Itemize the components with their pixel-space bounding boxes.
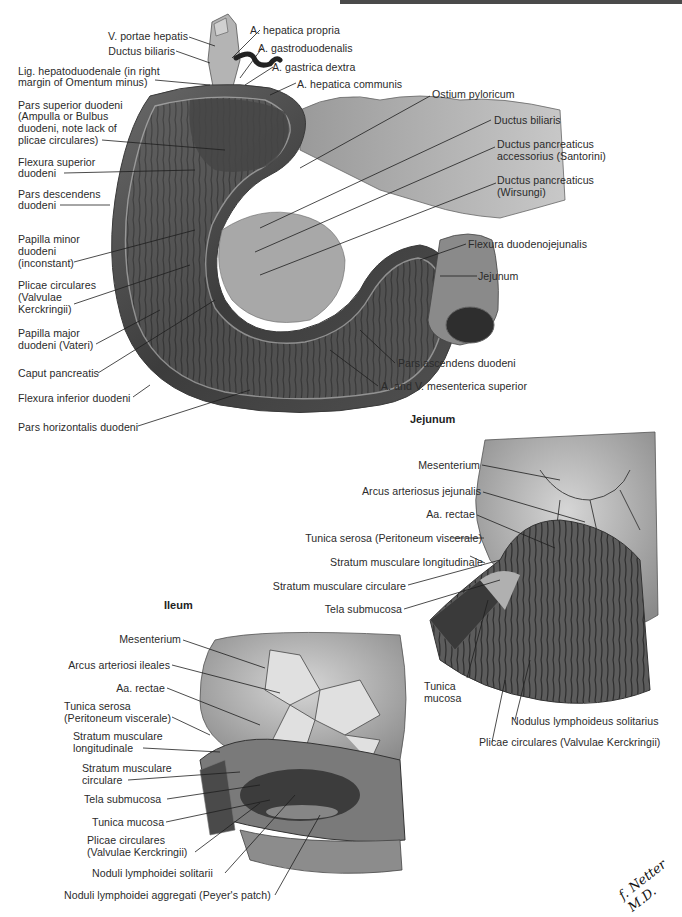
label-ileum-stratum-circulare-2: circulare	[82, 774, 122, 787]
label-plicae-circulares-2: (Valvulae	[18, 291, 62, 304]
label-flexura-duodenojejunalis: Flexura duodenojejunalis	[468, 238, 587, 251]
label-ileum-stratum-circulare-1: Stratum musculare	[82, 762, 172, 775]
label-ileum-aa-rectae: Aa. rectae	[60, 682, 165, 695]
label-ileum-tunica-serosa-1: Tunica serosa	[64, 700, 131, 713]
label-noduli-lymphoidei-aggregati: Noduli lymphoidei aggregati (Peyer's pat…	[64, 889, 271, 902]
label-pars-superior-2: (Ampulla or Bulbus	[18, 110, 108, 123]
label-papilla-minor-3: (inconstant)	[18, 257, 74, 270]
label-jejunum-tela-submucosa: Tela submucosa	[250, 603, 402, 616]
label-jejunum-tunica-mucosa-1: Tunica	[424, 680, 456, 693]
label-plicae-circulares-1: Plicae circulares	[18, 279, 96, 292]
label-flexura-superior-2: duodeni	[18, 167, 56, 180]
label-a-gastrica-dextra: A. gastrica dextra	[272, 61, 355, 74]
label-jejunum-aa-rectae: Aa. rectae	[280, 508, 475, 521]
label-arcus-arteriosus-jejunalis: Arcus arteriosus jejunalis	[280, 485, 481, 498]
label-a-hepatica-propria: A. hepatica propria	[250, 24, 340, 37]
label-jejunum-tunica-mucosa-2: mucosa	[424, 692, 461, 705]
label-ileum-mesenterium: Mesenterium	[60, 633, 181, 646]
label-caput-pancreatis: Caput pancreatis	[18, 367, 99, 380]
label-ileum-stratum-longitudinale-1: Stratum musculare	[73, 730, 163, 743]
label-plicae-circulares-3: Kerckringii)	[18, 303, 72, 316]
label-jejunum-stratum-circulare: Stratum musculare circulare	[200, 580, 406, 593]
ileum-section-title: Ileum	[164, 599, 193, 611]
label-pars-superior-4: plicae circulares)	[18, 134, 98, 147]
label-a-hepatica-communis: A. hepatica communis	[297, 78, 402, 91]
label-nodulus-lymphoideus-solitarius: Nodulus lymphoideus solitarius	[511, 715, 659, 728]
label-jejunum: Jejunum	[478, 270, 518, 283]
label-jejunum-plicae-circulares: Plicae circulares (Valvulae Kerckringii)	[479, 736, 660, 749]
label-ileum-tela-submucosa: Tela submucosa	[84, 793, 161, 806]
label-jejunum-mesenterium: Mesenterium	[280, 459, 480, 472]
label-pars-ascendens: Pars ascendens duodeni	[398, 357, 516, 370]
label-lig-hepatoduodenale-2: margin of Omentum minus)	[18, 76, 148, 89]
label-ileum-tunica-mucosa: Tunica mucosa	[92, 816, 164, 829]
label-ductus-pancreaticus-2: (Wirsungi)	[497, 186, 546, 199]
label-papilla-minor-2: duodeni	[18, 245, 56, 258]
duodenum-illustration	[112, 14, 565, 413]
label-ostium-pyloricum: Ostium pyloricum	[432, 88, 515, 101]
label-ileum-stratum-longitudinale-2: longitudinale	[73, 742, 133, 755]
label-pars-horizontalis: Pars horizontalis duodeni	[18, 421, 138, 434]
label-jejunum-tunica-serosa: Tunica serosa (Peritoneum viscerale)	[200, 532, 482, 545]
label-a-gastroduodenalis: A. gastroduodenalis	[258, 42, 353, 55]
label-noduli-lymphoidei-solitarii: Noduli lymphoidei solitarii	[92, 867, 213, 880]
ileum-illustration	[200, 632, 406, 873]
label-ileum-tunica-serosa-2: (Peritoneum viscerale)	[64, 712, 171, 725]
label-flexura-inferior: Flexura inferior duodeni	[18, 392, 131, 405]
label-ductus-pancreaticus-acc-2: accessorius (Santorini)	[497, 150, 606, 163]
label-papilla-major-2: duodeni (Vateri)	[18, 339, 93, 352]
label-v-portae-hepatis: V. portae hepatis	[70, 30, 188, 43]
label-papilla-major-1: Papilla major	[18, 327, 80, 340]
label-ductus-biliaris-top: Ductus biliaris	[70, 45, 175, 58]
label-arcus-arteriosi-ileales: Arcus arteriosi ileales	[30, 659, 170, 672]
label-ileum-plicae-circulares-1: Plicae circulares	[87, 834, 165, 847]
label-a-v-mesenterica-superior: A. and V. mesenterica superior	[381, 380, 527, 393]
label-ductus-pancreaticus-acc-1: Ductus pancreaticus	[497, 138, 594, 151]
label-ductus-pancreaticus-1: Ductus pancreaticus	[497, 174, 594, 187]
label-ileum-plicae-circulares-2: (Valvulae Kerckringii)	[87, 846, 187, 859]
label-ductus-biliaris-right: Ductus biliaris	[494, 114, 561, 127]
label-pars-superior-3: duodeni, note lack of	[18, 122, 117, 135]
label-pars-descendens-2: duodeni	[18, 199, 56, 212]
label-jejunum-stratum-longitudinale: Stratum musculare longitudinale	[200, 556, 483, 569]
jejunum-section-title: Jejunum	[410, 413, 455, 425]
label-papilla-minor-1: Papilla minor	[18, 233, 80, 246]
